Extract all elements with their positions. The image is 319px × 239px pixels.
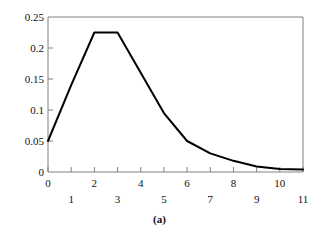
x-tick-label: 7 xyxy=(198,194,222,205)
data-curve xyxy=(48,33,303,170)
y-tick-label: 0.1 xyxy=(30,105,44,116)
x-tick-label: 5 xyxy=(152,194,176,205)
x-tick-label: 0 xyxy=(36,178,60,189)
x-tick-label: 1 xyxy=(59,194,83,205)
y-tick-label: 0.25 xyxy=(25,12,44,23)
x-tick-label: 10 xyxy=(268,178,292,189)
x-tick-label: 3 xyxy=(106,194,130,205)
x-tick-label: 6 xyxy=(175,178,199,189)
x-tick-label: 9 xyxy=(245,194,269,205)
axis-ticks xyxy=(48,48,303,172)
y-tick-label: 0.15 xyxy=(25,74,44,85)
figure-caption: (a) xyxy=(0,213,319,225)
plot-frame xyxy=(48,17,303,172)
y-tick-label: 0 xyxy=(39,167,45,178)
x-tick-label: 2 xyxy=(82,178,106,189)
y-tick-label: 0.05 xyxy=(25,136,44,147)
y-tick-label: 0.2 xyxy=(30,43,44,54)
x-tick-label: 11 xyxy=(291,194,315,205)
x-tick-label: 4 xyxy=(129,178,153,189)
x-tick-label: 8 xyxy=(221,178,245,189)
figure-panel: 00.050.10.150.20.25 01234567891011 (a) xyxy=(0,0,319,239)
